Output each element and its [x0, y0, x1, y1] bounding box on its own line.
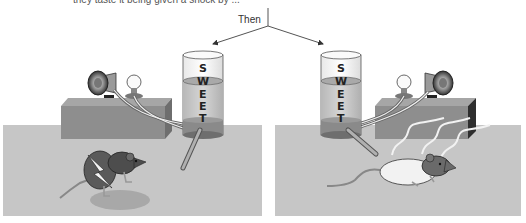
light-bulb-icon: [125, 75, 143, 99]
light-bulb-icon: [395, 75, 413, 99]
svg-text:T: T: [199, 112, 207, 125]
rat-shadow: [90, 190, 150, 210]
svg-text:S: S: [337, 62, 345, 75]
svg-text:S: S: [199, 62, 207, 75]
conditioning-diagram: S W E E T: [0, 0, 526, 223]
speaker-icon: [88, 71, 116, 98]
speaker-icon: [425, 71, 453, 98]
right-panel: S W E E T: [275, 51, 521, 216]
svg-text:T: T: [337, 112, 345, 125]
left-panel: S W E E T: [3, 51, 262, 216]
then-arrows: [213, 8, 323, 44]
svg-text:W: W: [197, 75, 209, 88]
svg-text:W: W: [335, 75, 347, 88]
